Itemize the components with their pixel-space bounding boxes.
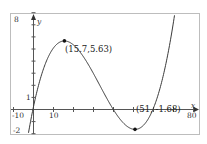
plot-frame [11,14,200,135]
y-min-label: -2 [13,126,21,135]
min-point-marker [133,128,137,132]
cubic-graph: 8 1 -2 -10 10 80 y x (15.7,5.63) (51, -1… [0,0,207,144]
y-one-label: 1 [26,93,31,102]
x-ten-label: 10 [49,111,59,120]
y-axis-arrow-icon [31,14,36,20]
max-point-label: (15.7,5.63) [65,44,112,54]
x-max-label: 80 [187,111,197,120]
y-axis-label: y [36,17,42,26]
max-point-marker [63,39,67,43]
min-point-label: (51, -1.68) [136,104,181,114]
y-max-label: 8 [14,15,19,24]
axes [11,13,199,134]
x-min-label: -10 [12,111,24,120]
